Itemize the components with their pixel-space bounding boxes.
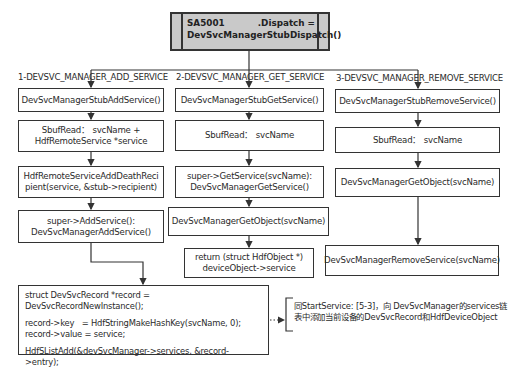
- step-text: DevSvcManagerStubGetService(): [181, 95, 319, 106]
- note-line-1: 同StartService: [5-3]，向 DevSvcManager的ser…: [294, 301, 507, 312]
- step-text: super->GetService(svcName):: [187, 171, 312, 182]
- step-text: SbufRead： svcName: [373, 135, 462, 146]
- code-line-new-instance: struct DevSvcRecord *record = DevSvcReco…: [25, 290, 262, 312]
- header-dispatch-label: .Dispatch =: [258, 17, 315, 29]
- start-service-note: 同StartService: [5-3]，向 DevSvcManager的ser…: [294, 301, 507, 323]
- get-step-super-get-service: super->GetService(svcName):DevSvcManager…: [175, 166, 324, 198]
- step-text: super->AddService():: [31, 216, 151, 227]
- add-step-add-death-recipient: HdfRemoteServiceAddDeathRecipient(servic…: [18, 166, 164, 198]
- step-text: DevSvcManagerStubAddService(): [22, 95, 161, 106]
- step-text: DevSvcManagerGetObject(svcName): [341, 177, 494, 188]
- step-text: pient(service, &stub->recipient): [24, 182, 159, 193]
- remove-step-sbuf-read: SbufRead： svcName: [335, 127, 500, 153]
- step-text: SbufRead： svcName: [205, 130, 294, 141]
- add-step-sbuf-read: SbufRead： svcName +HdfRemoteService *ser…: [18, 120, 164, 152]
- remove-step-get-object: DevSvcManagerGetObject(svcName): [335, 168, 500, 197]
- add-service-code-box: struct DevSvcRecord *record = DevSvcReco…: [18, 285, 269, 355]
- code-line-slist-add: HdfSListAdd(&devSvcManager->services, &r…: [25, 346, 262, 368]
- add-step-stub-add-service: DevSvcManagerStubAddService(): [18, 88, 164, 112]
- header-dispatch-function: DevSvcManagerStubDispatch(): [187, 29, 315, 41]
- code-line-record-key: record->key = HdfStringMakeHashKey(svcNa…: [25, 318, 262, 329]
- remove-step-stub-remove-service: DevSvcManagerStubRemoveService(): [335, 89, 500, 113]
- header-sa-id: SA5001: [187, 17, 225, 29]
- step-text: deviceObject->service: [195, 263, 303, 274]
- branch-label-remove-service: 3-DEVSVC_MANAGER_REMOVE_SERVICE: [336, 73, 503, 83]
- step-text: SbufRead： svcName +: [35, 125, 148, 136]
- branch-label-add-service: 1-DEVSVC_MANAGER_ADD_SERVICE: [18, 72, 168, 82]
- code-line-record-value: record->value = service;: [25, 329, 262, 340]
- step-text: DevSvcManagerStubRemoveService(): [339, 96, 496, 107]
- get-step-get-object: DevSvcManagerGetObject(svcName): [168, 207, 329, 236]
- step-text: DevSvcManagerAddService(): [31, 227, 151, 238]
- step-text: DevSvcManagerGetService(): [187, 182, 312, 193]
- get-step-sbuf-read: SbufRead： svcName: [175, 120, 324, 151]
- step-text: return (struct HdfObject *): [195, 252, 303, 263]
- dispatch-header-box: SA5001 .Dispatch = DevSvcManagerStubDisp…: [170, 12, 330, 51]
- get-step-return-service: return (struct HdfObject *)deviceObject-…: [184, 248, 314, 278]
- flow-diagram: SA5001 .Dispatch = DevSvcManagerStubDisp…: [0, 0, 522, 373]
- step-text: DevSvcManagerGetObject(svcName): [172, 216, 325, 227]
- branch-label-get-service: 2-DEVSVC_MANAGER_GET_SERVICE: [176, 72, 324, 82]
- step-text: HdfRemoteServiceAddDeathReci: [24, 171, 159, 182]
- step-text: DevSvcManagerRemoveService(svcName): [324, 255, 500, 266]
- add-step-super-add-service: super->AddService():DevSvcManagerAddServ…: [18, 210, 164, 243]
- note-line-2: 表中添加当前设备的DevSvcRecord和HdfDeviceObject: [294, 312, 507, 323]
- step-text: HdfRemoteService *service: [35, 136, 148, 147]
- get-step-stub-get-service: DevSvcManagerStubGetService(): [175, 88, 324, 112]
- remove-step-remove-service: DevSvcManagerRemoveService(svcName): [325, 245, 499, 276]
